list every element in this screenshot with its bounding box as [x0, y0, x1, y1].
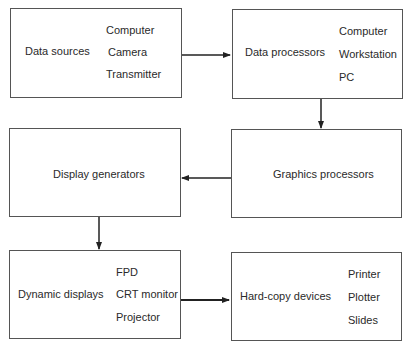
node-label: Display generators [53, 168, 145, 180]
node-label: Data sources [25, 45, 90, 57]
node-item: Workstation [339, 48, 397, 60]
node-item: Plotter [348, 291, 380, 303]
node-label: Data processors [245, 46, 325, 58]
node-item: CRT monitor [116, 288, 178, 300]
node-item: Projector [116, 311, 160, 323]
node-item: PC [339, 71, 354, 83]
node-label: Dynamic displays [18, 288, 104, 300]
node-item: Computer [106, 24, 154, 36]
node-item: FPD [116, 266, 138, 278]
node-item: Slides [348, 314, 378, 326]
node-label: Hard-copy devices [240, 290, 331, 302]
node-item: Transmitter [106, 68, 161, 80]
node-item: Printer [348, 268, 380, 280]
node-label: Graphics processors [273, 168, 374, 180]
node-item: Computer [339, 25, 387, 37]
node-item: Camera [108, 46, 147, 58]
